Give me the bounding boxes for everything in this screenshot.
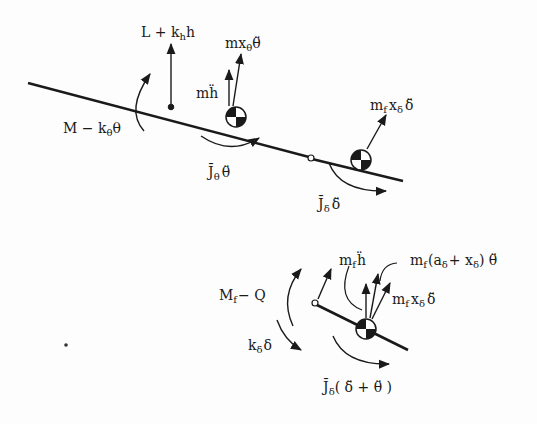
free-body-diagram: L + khh mxθθ̈ mḧ M − kθθ J̄θθ̈ mfxδδ̈ J̄… — [0, 0, 537, 424]
moment-label: M − kθθ — [63, 120, 121, 138]
elastic-axis-dot — [168, 104, 174, 110]
mfh-leader — [345, 266, 362, 310]
cg-icon-flap-bottom — [356, 319, 376, 339]
spring-moment-arrow — [277, 320, 301, 350]
J-delta-label: J̄δδ̈ — [316, 195, 340, 214]
flap-inertia-arrow-bottom — [333, 336, 389, 364]
hinge-icon-bottom — [312, 300, 318, 306]
mx-arrow — [233, 54, 241, 106]
flap-mfx-label: mfxδδ̈ — [370, 97, 413, 115]
cg-icon-flap — [351, 150, 371, 170]
stray-dot — [64, 343, 68, 347]
flap-moment-arrow — [288, 269, 301, 326]
J-delta-sum-label: J̄δ( δ̈ + θ̈ ) — [321, 378, 392, 397]
mfh-label: mfḧ — [339, 251, 366, 270]
hinge-force-arrow — [318, 269, 331, 299]
lift-label: L + khh — [141, 24, 195, 42]
Mf-Q-label: Mf− Q — [219, 287, 266, 305]
J-theta-label: J̄θθ̈ — [206, 163, 230, 182]
flap-inertia-arrow — [367, 115, 386, 149]
mfa-leader — [380, 263, 397, 281]
mfa-arrow — [370, 274, 378, 318]
k-delta-label: kδδ — [248, 337, 272, 355]
mh-label: mḧ — [196, 84, 218, 101]
cg-icon-wing — [226, 107, 246, 127]
mfx-label-bottom: mfxδδ̈ — [392, 291, 435, 309]
moment-arrow — [136, 74, 150, 131]
hinge-icon — [308, 155, 314, 161]
mfa-label: mf(aδ+ xδ) θ̈ — [410, 252, 497, 270]
mx-theta-label: mxθθ̈ — [225, 35, 261, 53]
